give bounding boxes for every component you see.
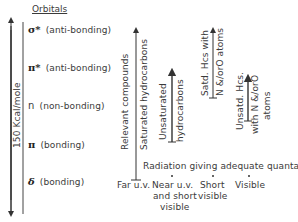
orbital-symbol: π* xyxy=(28,62,41,73)
region-far-uv: Far u.v. xyxy=(117,180,150,190)
compounds-header: Relevant compounds xyxy=(120,54,130,150)
compound-unsaturated-line1: Unsaturated xyxy=(158,83,168,140)
region-visible: Visible xyxy=(235,180,265,190)
orbital-label: (bonding) xyxy=(40,177,84,187)
orbitals-title: Orbitals xyxy=(32,4,67,14)
orbital-level-pi: π (bonding) xyxy=(28,133,85,152)
energy-axis-label: 150 Kcal/mole xyxy=(12,80,22,150)
compound-unsatd-hcs-n-o-line2: with N &/orO xyxy=(250,75,260,134)
region-marker-visible xyxy=(248,175,250,177)
orbital-symbol: δ xyxy=(28,176,35,187)
region-near-uv-line3: visible xyxy=(160,202,189,212)
orbital-level-pi-star: π* (anti-bonding) xyxy=(28,56,111,75)
region-marker-near-uv xyxy=(171,175,173,177)
radiation-header: Radiation giving adequate quanta xyxy=(143,161,298,171)
region-near-uv-line2: and short xyxy=(153,191,197,201)
orbital-level-sigma-star: σ* (anti-bonding) xyxy=(28,18,111,37)
orbital-symbol: π xyxy=(28,139,35,150)
orbital-label: (non-bonding) xyxy=(40,101,105,111)
region-short-visible-line2: visible xyxy=(198,191,227,201)
compound-satd-hcs-n-o-line2: N &/orO atoms xyxy=(215,28,225,96)
orbital-level-n: n (non-bonding) xyxy=(28,94,105,113)
region-short-visible-line1: Short xyxy=(200,180,225,190)
region-near-uv-line1: Near u.v. xyxy=(152,180,193,190)
region-marker-short-visible xyxy=(212,175,214,177)
orbital-level-delta: δ (bonding) xyxy=(28,170,84,189)
compound-unsaturated-line2: hydrocarbons xyxy=(175,79,185,142)
region-near-uv: Near u.v. xyxy=(152,180,193,190)
orbital-label: (anti-bonding) xyxy=(46,25,111,35)
compound-unsatd-hcs-n-o-line3: atoms xyxy=(262,91,272,120)
compound-saturated-hydrocarbons: Saturated hydrocarbons xyxy=(139,39,149,150)
orbital-label: (anti-bonding) xyxy=(46,63,111,73)
orbital-symbol: n xyxy=(28,100,34,111)
orbital-label: (bonding) xyxy=(40,140,84,150)
compound-satd-hcs-n-o-line1: Satd. Hcs with xyxy=(200,30,210,96)
compound-unsatd-hcs-n-o-line1: Unsatd. Hcs. xyxy=(235,72,245,130)
orbital-symbol: σ* xyxy=(28,24,41,35)
